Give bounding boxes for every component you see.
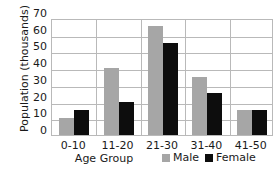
- y-axis-tick: 40: [22, 58, 47, 69]
- y-axis-tick: 70: [22, 8, 47, 19]
- y-axis-tick: 60: [22, 24, 47, 35]
- x-axis-title: Age Group: [52, 153, 156, 164]
- y-axis-tick: 0: [22, 125, 47, 136]
- y-axis-tick: 20: [22, 91, 47, 102]
- bar: [237, 110, 252, 135]
- y-axis-tick-labels: 010203040506070: [22, 13, 47, 136]
- y-axis-tick: 50: [22, 41, 47, 52]
- bar: [119, 102, 134, 135]
- bar: [59, 118, 74, 135]
- x-axis-tick: 11-20: [102, 139, 134, 152]
- bar-chart: Population (thousands) 010203040506070 0…: [0, 0, 278, 181]
- legend-label: Male: [173, 152, 199, 163]
- x-axis-tick: 0-10: [61, 139, 86, 152]
- bar: [207, 93, 222, 135]
- legend-label: Female: [216, 152, 256, 163]
- bars-layer: [52, 20, 272, 135]
- bar: [252, 110, 267, 135]
- bar: [74, 110, 89, 135]
- bar: [163, 43, 178, 135]
- bar: [104, 68, 119, 135]
- legend-entry: Female: [205, 152, 256, 163]
- legend-entry: Male: [162, 152, 199, 163]
- bar: [192, 77, 207, 136]
- chart-legend: MaleFemale: [162, 152, 256, 163]
- legend-swatch-icon: [162, 154, 170, 162]
- bar: [148, 26, 163, 135]
- y-axis-tick: 10: [22, 108, 47, 119]
- legend-swatch-icon: [205, 154, 213, 162]
- plot-area: [51, 19, 273, 136]
- y-axis-tick: 30: [22, 74, 47, 85]
